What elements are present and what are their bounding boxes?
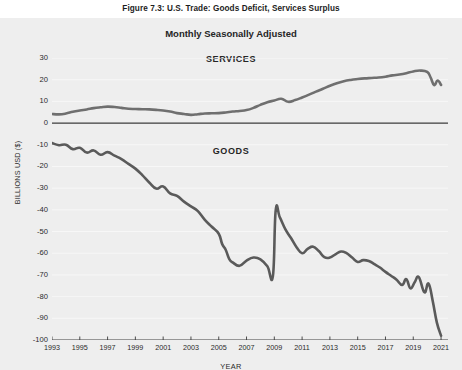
chart-svg [52, 58, 448, 340]
x-axis-title: YEAR [0, 362, 462, 370]
y-tick-label: 0 [6, 119, 48, 127]
y-tick-label: 30 [6, 54, 48, 62]
y-tick-label: -100 [6, 336, 48, 344]
figure-container: Figure 7.3: U.S. Trade: Goods Deficit, S… [0, 0, 462, 370]
y-tick-label: -70 [6, 271, 48, 279]
y-axis-title: BILLIONS USD ($) [13, 128, 22, 218]
y-tick-label: -50 [6, 228, 48, 236]
y-tick-label: -90 [6, 314, 48, 322]
chart-panel: Monthly Seasonally Adjusted SERVICES GOO… [0, 18, 462, 370]
y-tick-label: -60 [6, 249, 48, 257]
chart-title: Monthly Seasonally Adjusted [0, 28, 462, 39]
y-tick-label: -80 [6, 293, 48, 301]
x-tick-marks [52, 337, 441, 341]
plot-area [52, 58, 448, 340]
figure-caption: Figure 7.3: U.S. Trade: Goods Deficit, S… [0, 4, 462, 13]
y-tick-label: 10 [6, 97, 48, 105]
series-line-goods [52, 143, 441, 336]
gridlines [52, 58, 448, 340]
series-line-services [52, 71, 441, 115]
y-tick-label: 20 [6, 76, 48, 84]
x-tick-label: 2021 [421, 344, 461, 351]
x-axis-tick-labels: 1993199519971999200120032005200720092011… [52, 344, 448, 358]
y-axis-tick-labels: 3020100-10-20-30-40-50-60-70-80-90-100 [0, 58, 48, 340]
